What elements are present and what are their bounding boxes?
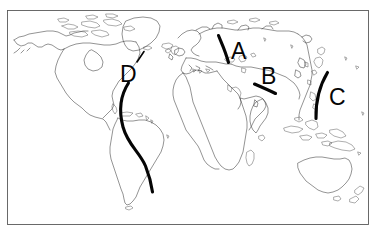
- markers-layer: A B C D: [120, 36, 346, 193]
- south-america-coastline: [110, 118, 164, 205]
- marker-c[interactable]: C: [316, 73, 346, 119]
- arabian-peninsula-detail: [228, 85, 241, 97]
- east-asia-coastline: [295, 34, 312, 120]
- marker-c-leader-line: [316, 73, 328, 119]
- iceland-coastline: [162, 43, 173, 49]
- alaska-coastline: [14, 31, 88, 53]
- japan-coastline: [312, 47, 325, 75]
- tierra-del-fuego: [126, 206, 133, 210]
- madagascar-coastline: [246, 150, 254, 166]
- marker-b-label: B: [261, 63, 276, 89]
- east-asia-islands: [305, 62, 317, 110]
- marker-a[interactable]: A: [219, 36, 248, 65]
- world-map-svg: A B C D: [0, 0, 376, 236]
- marker-a-leader-line: [219, 36, 229, 63]
- british-isles-coastline: [166, 46, 179, 55]
- siberia-arctic-coast: [196, 23, 298, 34]
- hudson-bay-coastline: [84, 50, 103, 71]
- africa-coastline: [173, 73, 247, 170]
- marker-d-label: D: [120, 61, 137, 87]
- map-frame: [8, 11, 369, 225]
- caribbean-islands: [112, 104, 149, 120]
- world-map-figure: A B C D: [0, 0, 376, 236]
- indonesia-coastline: [284, 117, 346, 146]
- australia-coastline: [298, 157, 352, 193]
- marker-c-label: C: [329, 84, 346, 110]
- new-zealand-coastline: [350, 186, 364, 203]
- asia-southern-outline: [217, 64, 300, 130]
- greenland-island: [144, 46, 152, 50]
- arctic-islands-eurasia: [228, 18, 279, 25]
- marker-a-label: A: [231, 38, 247, 64]
- marker-d[interactable]: D: [120, 52, 153, 193]
- tasmania-coastline: [334, 196, 341, 201]
- new-guinea-coastline: [330, 141, 355, 151]
- europe-coastline: [169, 30, 231, 74]
- marker-b[interactable]: B: [255, 63, 277, 94]
- sri-lanka: [259, 135, 265, 141]
- marker-d-leader-line: [121, 83, 153, 192]
- mediterranean-islands: [193, 69, 210, 73]
- marker-d-tick: [137, 52, 144, 63]
- greenland-coastline: [122, 17, 160, 51]
- coastlines-layer: [14, 14, 364, 210]
